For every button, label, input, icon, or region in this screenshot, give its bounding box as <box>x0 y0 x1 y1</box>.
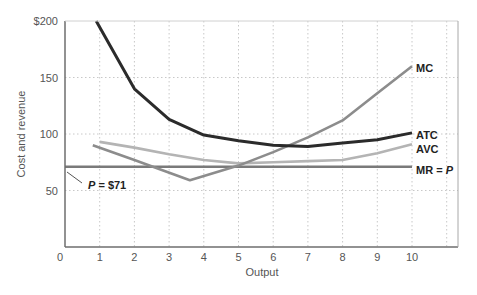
x-tick-label: 5 <box>235 251 241 263</box>
p-label-text: P <box>446 164 454 176</box>
price-annotation-value: = $71 <box>95 179 126 191</box>
x-tick-label: 3 <box>166 251 172 263</box>
y-axis-label: Cost and revenue <box>15 91 27 178</box>
y-tick-label: 100 <box>40 128 58 140</box>
price-annotation-pointer <box>67 172 82 183</box>
mr-label-text: MR = <box>416 164 446 176</box>
avc-label: AVC <box>416 143 438 155</box>
y-tick-label: $200 <box>34 15 58 27</box>
x-axis-label: Output <box>245 266 278 278</box>
x-tick-label: 9 <box>374 251 380 263</box>
atc-label: ATC <box>416 129 438 141</box>
y-tick-label: 50 <box>46 185 58 197</box>
x-tick-label: 0 <box>57 251 63 263</box>
x-tick-label: 2 <box>131 251 137 263</box>
y-tick-label: 150 <box>40 72 58 84</box>
x-tick-label: 8 <box>340 251 346 263</box>
x-tick-label: 7 <box>305 251 311 263</box>
price-annotation: P = $71 <box>88 179 126 191</box>
x-tick-label: 4 <box>201 251 207 263</box>
mr-p-label: MR = P <box>416 164 454 176</box>
atc-curve <box>96 21 412 146</box>
series-layer <box>65 21 412 180</box>
mc-label: MC <box>416 62 433 74</box>
x-tick-label: 10 <box>406 251 418 263</box>
x-tick-label: 6 <box>270 251 276 263</box>
x-tick-label: 1 <box>97 251 103 263</box>
cost-revenue-chart: 01234567891050100150$200 Output Cost and… <box>0 0 477 295</box>
